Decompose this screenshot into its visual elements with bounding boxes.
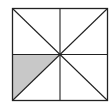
square-diagram bbox=[0, 0, 112, 107]
